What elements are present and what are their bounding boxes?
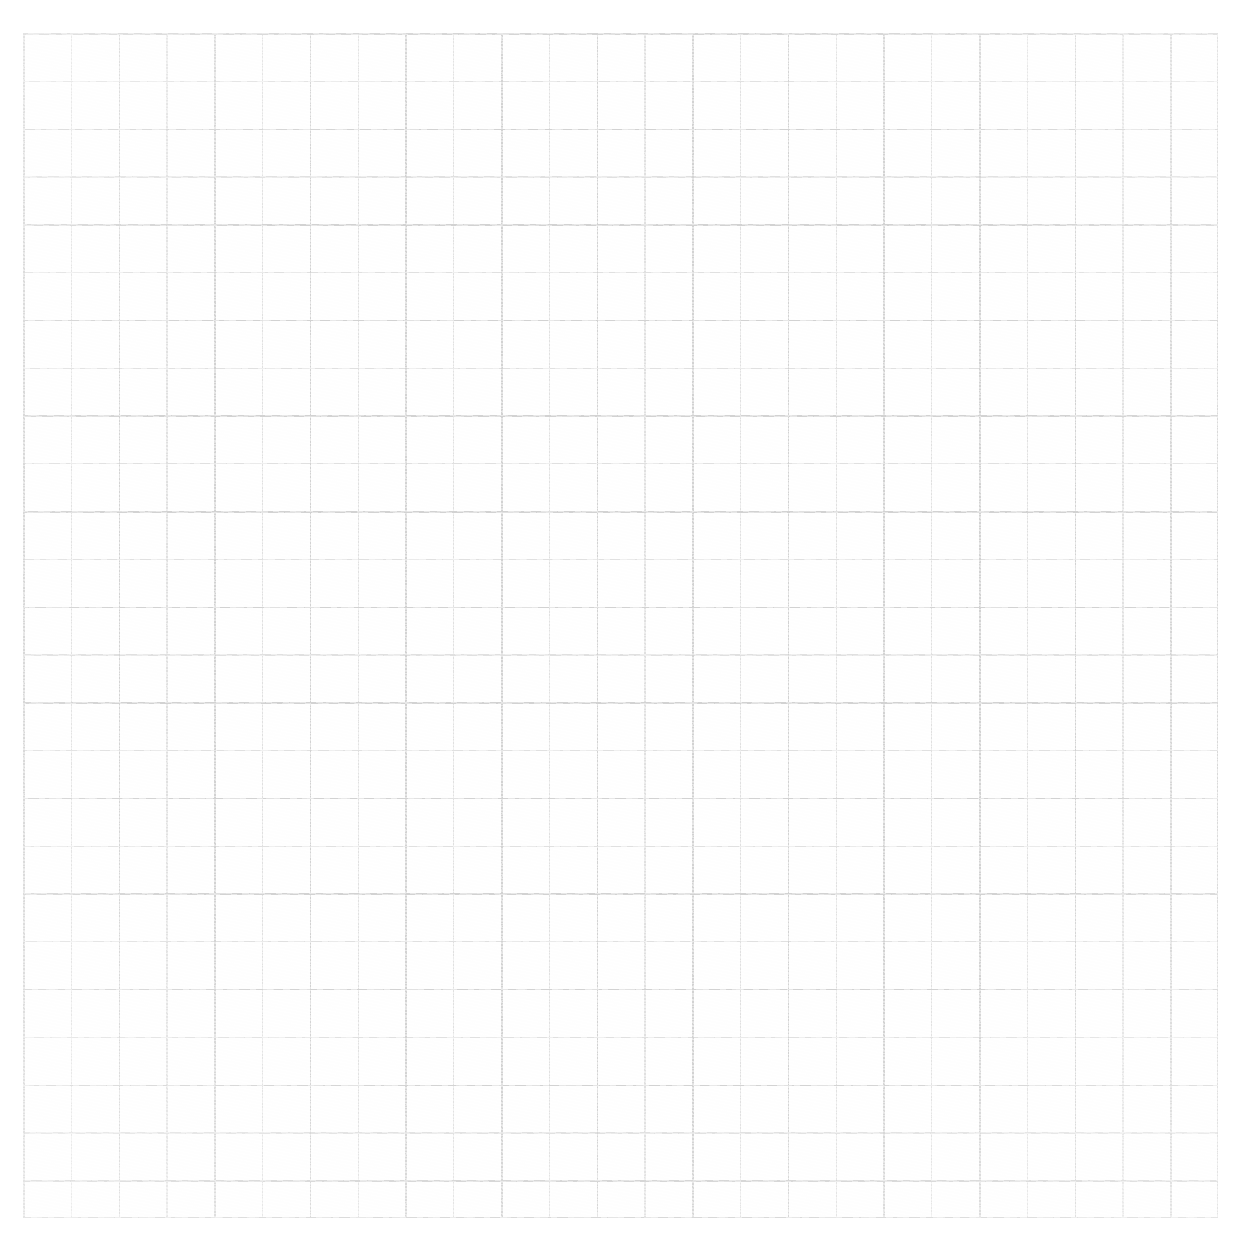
grid-major-lines xyxy=(23,33,1218,1218)
scanned-page xyxy=(0,0,1240,1238)
page-margin-bottom xyxy=(0,1218,1240,1238)
paper-sheet xyxy=(0,0,1240,1238)
grid-right-edge-rule xyxy=(1217,33,1218,1218)
page-margin-top xyxy=(0,0,1240,33)
page-margin-left xyxy=(0,0,23,1238)
grid-bottom-edge-rule xyxy=(23,1217,1218,1218)
grid-minor-lines xyxy=(23,33,1218,1218)
graph-paper-grid xyxy=(23,33,1218,1218)
page-margin-right xyxy=(1218,0,1240,1238)
scan-texture-overlay xyxy=(23,33,1218,1218)
